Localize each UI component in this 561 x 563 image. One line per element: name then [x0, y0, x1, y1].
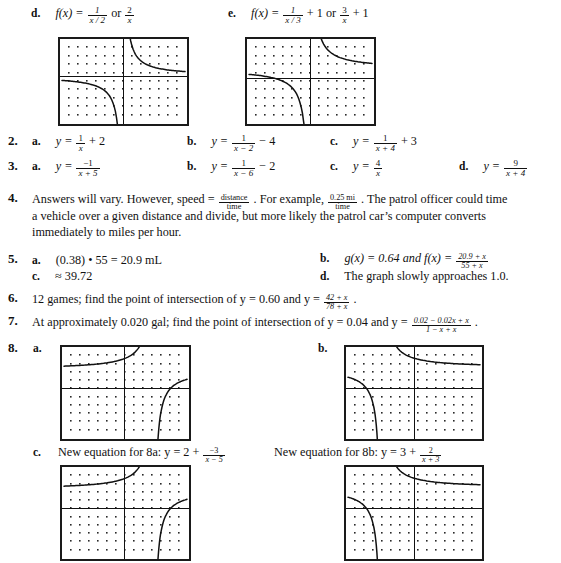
item-tail: − 2: [259, 159, 275, 173]
item-label: c.: [330, 135, 338, 147]
problem-4-line-2: a vehicle over a given distance and divi…: [32, 208, 557, 224]
item-lhs: y =: [211, 159, 228, 173]
expr-prefix-1e: f(x) =: [251, 6, 279, 20]
problem-4-segment-2: . For example,: [254, 192, 324, 206]
item-fraction: 1 x: [76, 134, 85, 153]
item-fraction: 1 x − 2: [232, 134, 255, 153]
problem-8-label-c: c.: [33, 446, 41, 458]
new-equation-8a: New equation for 8a: y = 2 + −3 x − 5: [58, 444, 226, 464]
item-label: b.: [320, 252, 329, 264]
graph-curve: [60, 39, 186, 123]
item-text: ≈ 39.72: [55, 269, 92, 283]
problem-8-label-a: a.: [33, 342, 42, 354]
item-lhs: y =: [483, 159, 500, 173]
problem-3-item-c: c. y = 4 x: [330, 159, 383, 179]
conjunction-1e: or: [326, 6, 336, 20]
problem-3-item-b: b. y = 1 x − 6 − 2: [187, 159, 275, 179]
problem-6-text: 12 games; find the point of intersection…: [32, 291, 357, 311]
item-lhs: y =: [353, 134, 370, 148]
new-equation-8a-text: New equation for 8a: y = 2 +: [58, 445, 199, 459]
item-tail: + 3: [401, 134, 417, 148]
item-label: b.: [187, 135, 196, 147]
problem-2-item-a: a. y = 1 x + 2: [32, 134, 105, 154]
problem-7-statement: At approximately 0.020 gal; find the poi…: [32, 315, 408, 329]
new-equation-8b-text: New equation for 8b: y = 3 +: [274, 445, 416, 459]
problem-3-number: 3.: [8, 158, 18, 174]
item-label: c.: [330, 160, 338, 172]
problem-2-number: 2.: [8, 133, 18, 149]
problem-1d: d. f(x) = 1 x / 2 or 2 x: [31, 6, 135, 26]
graph-problem-1d: [58, 37, 189, 126]
problem-2-item-c: c. y = 1 x + 4 + 3: [330, 134, 417, 154]
problem-3-item-a: a. y = −1 x + 5: [32, 159, 101, 179]
item-label: d.: [320, 270, 329, 282]
fraction-1d-2: 2 x: [125, 6, 134, 25]
problem-4-number: 4.: [8, 190, 18, 206]
graph-curve: [346, 347, 481, 438]
item-lhs: y =: [211, 134, 228, 148]
problem-7-text: At approximately 0.020 gal; find the poi…: [32, 314, 478, 334]
part-label-e: e.: [228, 7, 236, 19]
item-label: a.: [32, 254, 41, 266]
item-label: d.: [459, 160, 468, 172]
fraction-1d-1: 1 x / 2: [88, 6, 108, 25]
item-fraction: 1 x + 4: [374, 134, 397, 153]
item-label: a.: [32, 135, 41, 147]
expr-prefix-1d: f(x) =: [55, 6, 83, 20]
graph-problem-8b: [344, 345, 484, 441]
fraction-new-8a: −3 x − 5: [203, 447, 224, 465]
item-lhs: y =: [56, 134, 73, 148]
graph-curve: [247, 39, 373, 123]
fraction-new-8b: 2 x + 3: [420, 447, 441, 465]
problem-4-line-3: immediately to miles per hour.: [32, 224, 557, 240]
graph-problem-8c-left: [60, 465, 191, 561]
item-tail: + 2: [89, 134, 105, 148]
problem-2-item-b: b. y = 1 x − 2 − 4: [187, 134, 275, 154]
fraction-7: 0.02 − 0.02x + x 1 − x + x: [412, 317, 471, 335]
conjunction-1d: or: [111, 6, 121, 20]
problem-5-item-d: d. The graph slowly approaches 1.0.: [320, 268, 509, 284]
item-text: g(x) = 0.64 and f(x) =: [344, 251, 452, 265]
item-label: b.: [187, 160, 196, 172]
graph-curve: [62, 347, 188, 438]
problem-8-label-b: b.: [318, 342, 327, 354]
item-fraction: −1 x + 5: [76, 159, 99, 178]
problem-5-item-c: c. ≈ 39.72: [32, 268, 92, 284]
graph-problem-8c-right: [344, 465, 484, 561]
problem-4-segment-3: . The patrol officer could time: [361, 192, 507, 206]
item-label: c.: [32, 270, 40, 282]
fraction-1e-2: 3 x: [340, 6, 349, 25]
item-text: (0.38) • 55 = 20.9 mL: [56, 253, 162, 267]
item-fraction: 1 x − 6: [232, 159, 255, 178]
new-equation-8b: New equation for 8b: y = 3 + 2 x + 3: [274, 444, 442, 464]
problem-8-number: 8.: [8, 340, 18, 356]
problem-5-item-a: a. (0.38) • 55 = 20.9 mL: [32, 252, 162, 268]
item-tail: − 4: [259, 134, 275, 148]
graph-curve: [346, 467, 481, 558]
graph-curve: [62, 467, 188, 558]
problem-4-segment-1: Answers will vary. However, speed =: [32, 192, 215, 206]
item-label: a.: [32, 160, 41, 172]
item-lhs: y =: [56, 159, 73, 173]
part-label-d: d.: [31, 7, 40, 19]
item-text: The graph slowly approaches 1.0.: [344, 269, 508, 283]
fraction-6: 42 + x 78 + x: [324, 294, 349, 312]
problem-6-statement: 12 games; find the point of intersection…: [32, 292, 320, 306]
problem-7-period: .: [475, 315, 478, 329]
graph-problem-1e: [245, 37, 376, 126]
problem-6-number: 6.: [8, 290, 18, 306]
problem-7-number: 7.: [8, 313, 18, 329]
problem-3-item-d: d. y = 9 x + 4: [459, 159, 528, 179]
item-fraction: 4 x: [374, 159, 383, 178]
fraction-1e-1: 1 x / 3: [283, 6, 303, 25]
plus-one-1e-b: + 1: [353, 6, 369, 20]
problem-1e: e. f(x) = 1 x / 3 + 1 or 3 x + 1: [228, 6, 369, 26]
problem-6-period: .: [353, 292, 356, 306]
item-fraction: 9 x + 4: [504, 159, 527, 178]
problem-5-number: 5.: [8, 251, 18, 267]
item-lhs: y =: [353, 159, 370, 173]
plus-one-1e-a: + 1: [307, 6, 323, 20]
graph-problem-8a: [60, 345, 191, 441]
answer-key-page: d. f(x) = 1 x / 2 or 2 x e. f(x) = 1 x /…: [0, 0, 561, 563]
